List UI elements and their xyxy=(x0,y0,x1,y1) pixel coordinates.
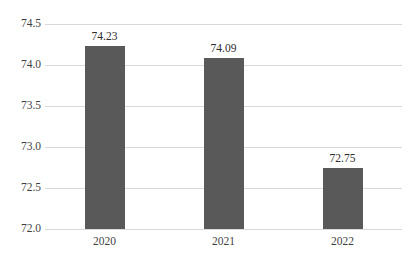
y-axis-tick-label: 73.5 xyxy=(1,100,41,112)
x-axis-tick-label-2020: 2020 xyxy=(93,236,116,248)
bar-2020[interactable] xyxy=(85,46,125,229)
gridline xyxy=(45,24,402,25)
x-axis: 202020212022 xyxy=(45,234,402,256)
y-axis-tick-label: 74.5 xyxy=(1,18,41,30)
plot-area xyxy=(45,24,402,229)
x-axis-tick-label-2021: 2021 xyxy=(212,236,235,248)
bar-chart: 72.072.573.073.574.074.5 74.2374.0972.75… xyxy=(0,0,414,264)
x-axis-tick-label-2022: 2022 xyxy=(331,236,354,248)
bar-2021[interactable] xyxy=(204,58,244,229)
y-axis: 72.072.573.073.574.074.5 xyxy=(0,24,41,229)
bar-value-label-2021: 74.09 xyxy=(211,43,237,55)
bar-value-label-2022: 72.75 xyxy=(330,153,356,165)
bar-value-label-2020: 74.23 xyxy=(92,31,118,43)
bar-2022[interactable] xyxy=(323,168,363,230)
y-axis-tick-label: 73.0 xyxy=(1,141,41,153)
y-axis-tick-label: 72.0 xyxy=(1,223,41,235)
y-axis-tick-label: 72.5 xyxy=(1,182,41,194)
y-axis-tick-label: 74.0 xyxy=(1,59,41,71)
